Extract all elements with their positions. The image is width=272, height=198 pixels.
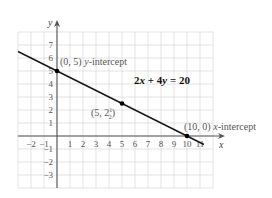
y-tick-label: −3 (43, 170, 53, 180)
x-tick-label: −2 (26, 139, 36, 149)
x-tick-label: 1 (68, 139, 73, 149)
data-point (120, 101, 125, 106)
x-intercept-label: (10, 0) x-intercept (184, 121, 256, 133)
y-intercept-label: (0, 5) y-intercept (60, 56, 127, 68)
x-tick-label: 7 (146, 139, 151, 149)
chart: xy −2−112345678910117654321−1−2−3 (0, 5)… (0, 0, 272, 198)
y-tick-label: 1 (49, 118, 54, 128)
y-tick-label: 4 (49, 79, 54, 89)
midpoint-label: (5, 212) (91, 107, 115, 120)
x-axis-label: x (218, 139, 224, 150)
data-point (55, 69, 60, 74)
y-tick-label: 2 (49, 105, 54, 115)
x-tick-label: 6 (133, 139, 138, 149)
x-tick-label: 3 (94, 139, 99, 149)
y-tick-label: 6 (49, 53, 54, 63)
x-tick-label: 2 (81, 139, 86, 149)
data-point (185, 134, 190, 139)
y-tick-label: −1 (43, 144, 53, 154)
y-tick-label: 7 (49, 40, 54, 50)
x-tick-label: 9 (172, 139, 177, 149)
x-tick-label: 4 (107, 139, 112, 149)
y-axis-label: y (47, 17, 53, 28)
y-tick-label: 3 (49, 92, 54, 102)
x-tick-label: 5 (120, 139, 125, 149)
equation-label: 2x + 4y = 20 (134, 74, 190, 86)
x-tick-label: 10 (183, 139, 193, 149)
x-tick-label: 8 (159, 139, 164, 149)
y-tick-label: −2 (43, 157, 53, 167)
